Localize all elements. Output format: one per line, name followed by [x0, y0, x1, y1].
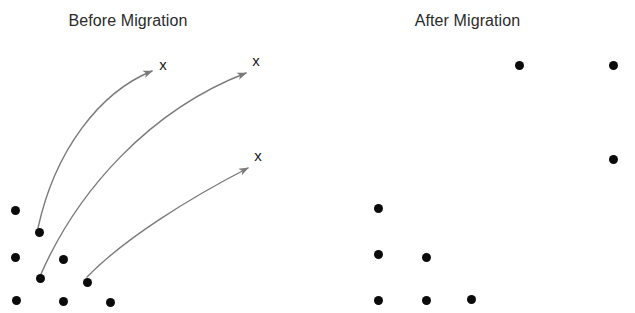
migration-diagram: Before Migration After Migration xxx [0, 0, 635, 313]
after-migration-title: After Migration [310, 11, 625, 31]
panel-after-migration: After Migration [320, 0, 635, 313]
panel-before-migration: Before Migration [0, 0, 320, 313]
before-migration-title: Before Migration [0, 11, 288, 31]
